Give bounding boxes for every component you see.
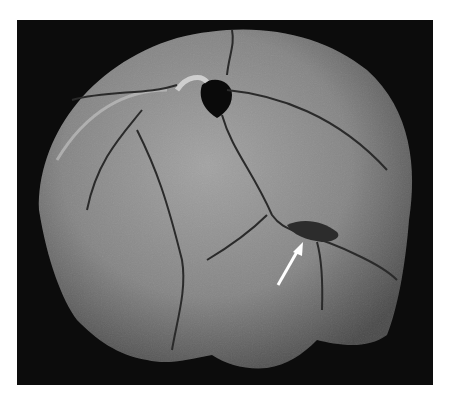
skull-photograph xyxy=(17,20,433,385)
skull-illustration xyxy=(17,20,433,385)
